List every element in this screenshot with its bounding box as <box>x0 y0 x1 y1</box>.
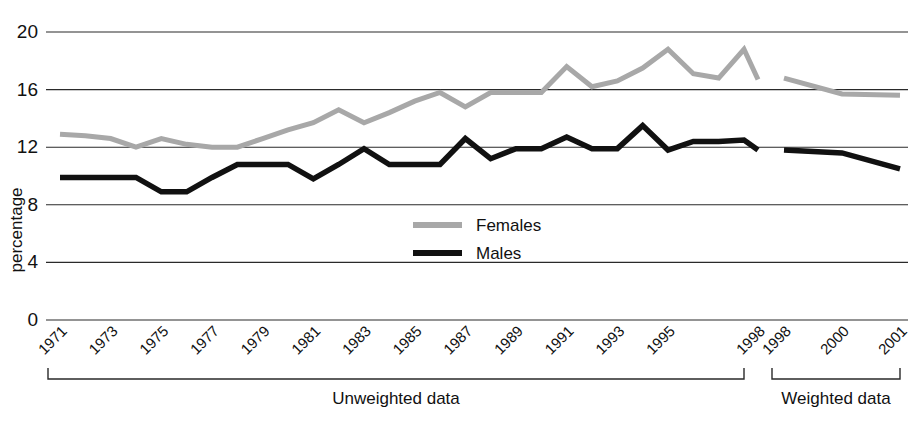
x-tick-unweighted-1989: 1989 <box>491 322 527 358</box>
y-tick-12: 12 <box>17 136 38 157</box>
x-tick-unweighted-1981: 1981 <box>288 322 324 358</box>
panel-label-weighted: Weighted data <box>781 389 891 408</box>
x-tick-weighted-1998: 1998 <box>759 322 795 358</box>
chart-container: 048121620 percentage 1971197319751977197… <box>0 0 916 432</box>
series-line-females-weighted <box>784 78 900 95</box>
series-line-males-weighted <box>784 150 900 169</box>
x-tick-unweighted-1973: 1973 <box>85 322 121 358</box>
x-tick-unweighted-1977: 1977 <box>187 322 223 358</box>
x-tick-unweighted-1985: 1985 <box>389 322 425 358</box>
y-tick-0: 0 <box>27 309 38 330</box>
y-axis-title: percentage <box>7 187 26 272</box>
series-lines-group <box>60 49 900 192</box>
gridlines-group <box>46 32 908 320</box>
x-tick-unweighted-1995: 1995 <box>643 322 679 358</box>
legend-label-females: Females <box>476 216 541 235</box>
panel-label-unweighted: Unweighted data <box>332 389 460 408</box>
x-tick-weighted-2000: 2000 <box>817 322 853 358</box>
x-axis-tick-labels: 1971197319751977197919811983198519871989… <box>35 322 911 358</box>
x-tick-unweighted-1993: 1993 <box>592 322 628 358</box>
y-axis-tick-labels: 048121620 <box>17 21 39 330</box>
x-tick-weighted-2001: 2001 <box>875 322 911 358</box>
x-tick-unweighted-1991: 1991 <box>541 322 577 358</box>
x-tick-unweighted-1979: 1979 <box>237 322 273 358</box>
x-tick-unweighted-1975: 1975 <box>136 322 172 358</box>
bracket-weighted <box>772 368 900 379</box>
x-tick-unweighted-1971: 1971 <box>35 322 71 358</box>
y-tick-16: 16 <box>17 79 38 100</box>
legend-label-males: Males <box>476 244 521 263</box>
x-tick-unweighted-1998: 1998 <box>733 322 769 358</box>
y-tick-8: 8 <box>27 194 38 215</box>
y-tick-20: 20 <box>17 21 38 42</box>
bracket-unweighted <box>48 368 744 379</box>
panel-brackets-group <box>48 368 900 379</box>
y-tick-4: 4 <box>27 251 38 272</box>
legend: Females Males <box>413 216 541 263</box>
series-line-males-unweighted <box>60 126 758 192</box>
x-tick-unweighted-1987: 1987 <box>440 322 476 358</box>
line-chart-figure: 048121620 percentage 1971197319751977197… <box>0 0 916 432</box>
x-tick-unweighted-1983: 1983 <box>339 322 375 358</box>
